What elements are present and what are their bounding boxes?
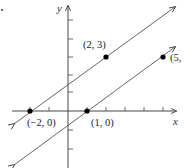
label-1-0: (1, 0) (91, 117, 114, 129)
point-1-0 (84, 108, 89, 113)
coordinate-plane: (−2, 0) (2, 3) (1, 0) (5, x y (0, 0, 184, 168)
point-5-3 (160, 54, 165, 59)
point-2-3 (103, 54, 108, 59)
label-5-3: (5, (170, 52, 181, 64)
label-2-3: (2, 3) (83, 39, 106, 51)
x-axis-label: x (172, 115, 178, 127)
x-ticks (30, 107, 163, 111)
stray-dot (1, 9, 3, 11)
point-neg2-0 (27, 108, 32, 113)
label-neg2-0: (−2, 0) (27, 117, 56, 129)
y-axis-label: y (56, 2, 62, 14)
